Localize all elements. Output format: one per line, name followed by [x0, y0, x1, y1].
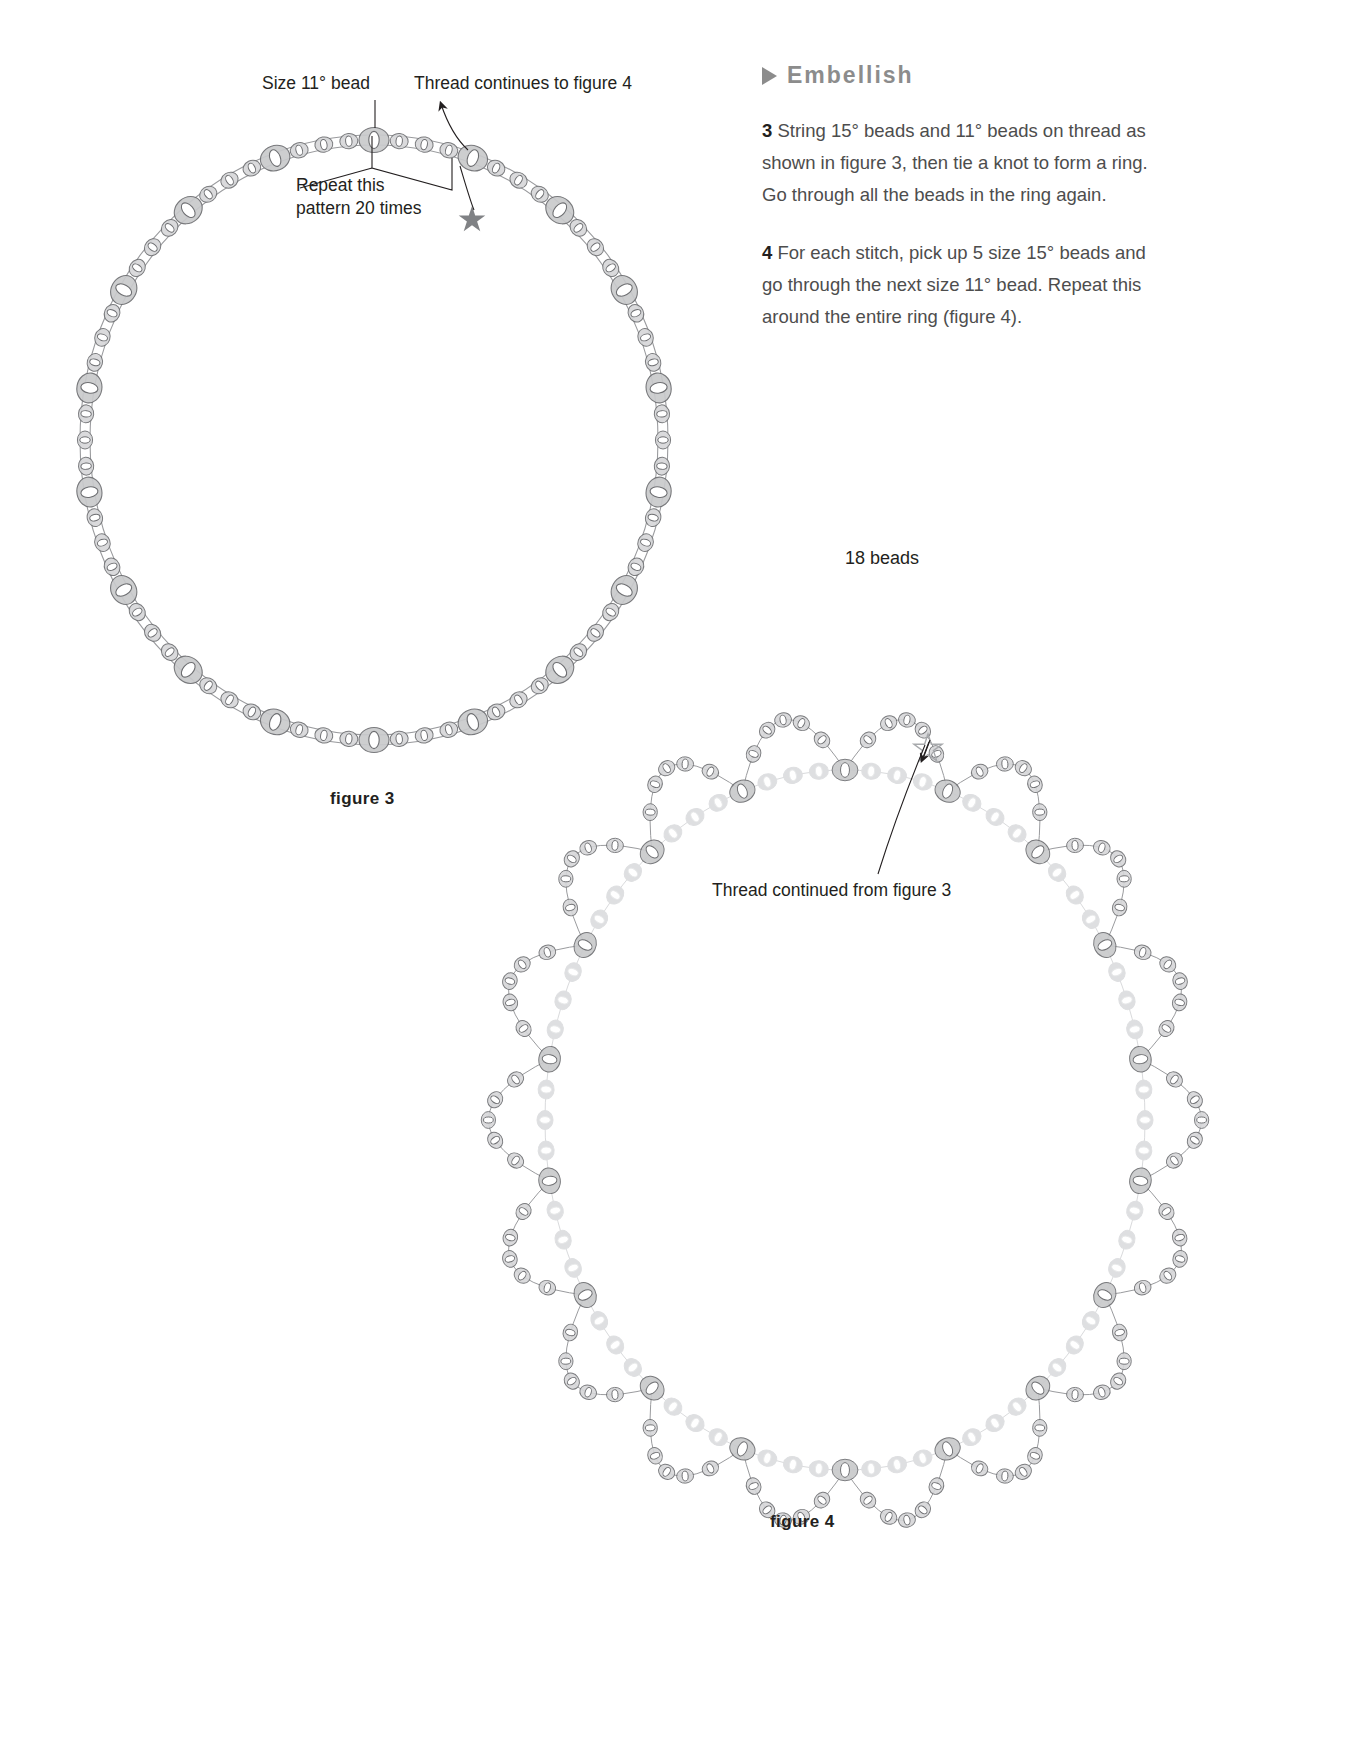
step-3-paragraph: 3 String 15° beads and 11° beads on thre… [762, 115, 1154, 211]
figure-3-caption: figure 3 [330, 789, 395, 809]
instructions-column: Embellish 3 String 15° beads and 11° bea… [762, 62, 1154, 359]
callout-thread-continues-to-figure-4: Thread continues to figure 4 [414, 72, 632, 95]
triangle-right-icon [762, 67, 777, 85]
callout-repeat-line-2: pattern 20 times [296, 198, 421, 218]
page: Embellish 3 String 15° beads and 11° bea… [0, 0, 1355, 1750]
step-4-paragraph: 4 For each stitch, pick up 5 size 15° be… [762, 237, 1154, 333]
figure-4-caption: figure 4 [770, 1512, 835, 1532]
step-4-text: For each stitch, pick up 5 size 15° bead… [762, 242, 1146, 327]
callout-repeat-line-1: Repeat this [296, 175, 385, 195]
callout-repeat-pattern: Repeat this pattern 20 times [296, 174, 456, 220]
section-header: Embellish [762, 62, 1154, 89]
callout-thread-continued-from-figure-3: Thread continued from figure 3 [712, 879, 951, 902]
figure-4-ring [481, 711, 1209, 1529]
figure-3-ring [75, 128, 674, 753]
section-title: Embellish [787, 62, 914, 89]
callout-size-11-bead: Size 11° bead [262, 72, 370, 95]
step-3-number: 3 [762, 120, 772, 141]
step-3-text: String 15° beads and 11° beads on thread… [762, 120, 1148, 205]
step-4-number: 4 [762, 242, 772, 263]
bead-count-label: 18 beads [845, 548, 919, 569]
